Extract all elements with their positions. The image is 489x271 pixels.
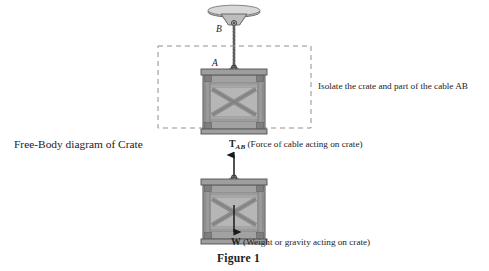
point-label-b: B (216, 25, 222, 35)
free-body-diagram-title: Free-Body diagram of Crate (14, 139, 143, 150)
tension-description: (Force of cable acting on crate) (248, 139, 363, 149)
free-body-diagram-group (201, 155, 267, 244)
upper-diagram-group (158, 5, 311, 134)
cable-ab (233, 26, 236, 69)
ceiling-mount (208, 5, 260, 25)
physics-figure-graphics (0, 0, 489, 271)
weight-symbol: W (231, 236, 241, 247)
point-label-a: A (212, 59, 218, 69)
tension-subscript: AB (236, 142, 246, 150)
weight-description: (Weight or gravity acting on crate) (243, 237, 370, 247)
figure-caption: Figure 1 (217, 253, 260, 265)
crate-suspended (201, 69, 267, 134)
tension-force-label: TAB (Force of cable acting on crate) (229, 139, 363, 151)
figure-canvas: B A Isolate the crate and part of the ca… (0, 0, 489, 271)
isolation-note: Isolate the crate and part of the cable … (318, 82, 468, 91)
weight-force-label: W (Weight or gravity acting on crate) (231, 237, 370, 247)
